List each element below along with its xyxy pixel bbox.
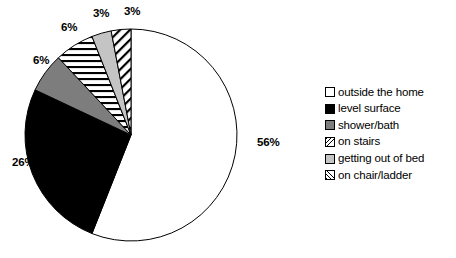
legend-swatch-icon-on-stairs <box>325 137 335 147</box>
legend-label-getting-out-of-bed: getting out of bed <box>338 153 424 165</box>
legend-item-on-chair-ladder: on chair/ladder <box>325 167 455 184</box>
pie-chart-figure: 56% 26% 6% 6% 3% 3% outside the home lev… <box>0 0 456 258</box>
legend-swatch-icon-on-chair-ladder <box>325 170 335 180</box>
slice-label-level-surface: 26% <box>12 157 34 169</box>
chart-legend: outside the home level surface shower/ba… <box>325 84 455 184</box>
legend-swatch-icon-level-surface <box>325 104 335 114</box>
legend-swatch-icon-shower-bath <box>325 120 335 130</box>
legend-label-shower-bath: shower/bath <box>338 120 399 132</box>
slice-label-shower-bath: 6% <box>33 55 49 67</box>
legend-swatch-icon-getting-out-of-bed <box>325 154 335 164</box>
slice-label-on-chair-ladder: 3% <box>124 6 140 18</box>
legend-item-outside-the-home: outside the home <box>325 84 455 101</box>
slice-label-getting-out-of-bed: 3% <box>93 8 109 20</box>
legend-label-outside-the-home: outside the home <box>338 87 424 99</box>
legend-label-on-chair-ladder: on chair/ladder <box>338 170 412 182</box>
legend-item-getting-out-of-bed: getting out of bed <box>325 150 455 167</box>
legend-swatch-icon-outside-the-home <box>325 87 335 97</box>
slice-label-outside-the-home: 56% <box>257 137 279 149</box>
slice-label-on-stairs: 6% <box>61 22 77 34</box>
legend-label-on-stairs: on stairs <box>338 136 380 148</box>
legend-item-level-surface: level surface <box>325 101 455 118</box>
legend-item-on-stairs: on stairs <box>325 134 455 151</box>
legend-label-level-surface: level surface <box>338 103 401 115</box>
legend-item-shower-bath: shower/bath <box>325 117 455 134</box>
